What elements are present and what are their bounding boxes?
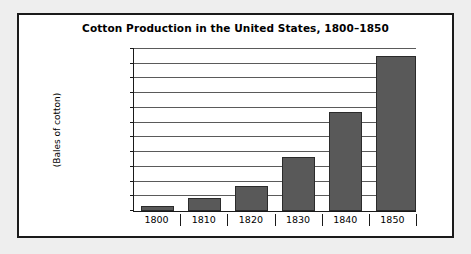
bar-1850[interactable] xyxy=(376,56,416,211)
bar-slot xyxy=(181,49,228,211)
bar-1800[interactable] xyxy=(141,206,175,211)
x-axis-separator xyxy=(369,214,370,226)
bar-1810[interactable] xyxy=(188,198,222,211)
x-axis-tick-labels: 180018101820183018401850 xyxy=(133,214,416,230)
y-axis-title-label: (Bales of cotton) xyxy=(52,93,62,168)
bar-slot xyxy=(228,49,275,211)
x-axis-separator xyxy=(416,214,417,226)
bar-slot xyxy=(369,49,416,211)
bar-1820[interactable] xyxy=(235,186,269,211)
x-axis-tick-label-1800: 1800 xyxy=(144,214,168,225)
chart-figure-frame: Cotton Production in the United States, … xyxy=(17,13,454,238)
x-axis-tick-label-1840: 1840 xyxy=(333,214,357,225)
x-axis-tick-label-1820: 1820 xyxy=(239,214,263,225)
bar-1840[interactable] xyxy=(329,112,363,211)
bar-slot xyxy=(322,49,369,211)
y-axis-title: (Bales of cotton) xyxy=(50,65,64,195)
x-axis-separator xyxy=(180,214,181,226)
x-axis-tick-label-1830: 1830 xyxy=(286,214,310,225)
chart-title: Cotton Production in the United States, … xyxy=(19,22,452,34)
x-axis-tick-label-1810: 1810 xyxy=(192,214,216,225)
bar-slot xyxy=(275,49,322,211)
x-axis-separator xyxy=(275,214,276,226)
x-axis-tick-label-1850: 1850 xyxy=(380,214,404,225)
x-axis-separator xyxy=(227,214,228,226)
bar-slot xyxy=(134,49,181,211)
bar-series xyxy=(134,49,416,211)
x-axis-separator xyxy=(322,214,323,226)
bar-1830[interactable] xyxy=(282,157,316,211)
plot-area xyxy=(133,49,416,212)
